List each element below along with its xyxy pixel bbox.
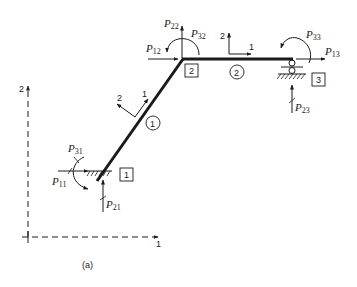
- load-p22-label: P22: [163, 17, 179, 31]
- member-1-local-axis-1-label: 1: [142, 89, 147, 99]
- global-axis-2-label: 2: [19, 84, 24, 94]
- load-p11-label: P11: [51, 175, 66, 189]
- load-p32-label: P32: [190, 27, 206, 41]
- global-axis-1-label: 1: [156, 239, 161, 249]
- load-p13-label: P13: [324, 45, 340, 59]
- fixed-support-hatch: [87, 171, 110, 176]
- member-2-label: 2: [234, 68, 239, 78]
- load-p31-moment: [73, 157, 88, 189]
- roller-base-hatch: [277, 74, 305, 79]
- member-1-local-axis-2: [117, 104, 135, 117]
- node-1: 1 P11 P21 P31: [51, 142, 133, 212]
- load-p33-label: P33: [305, 28, 321, 42]
- member-1-local-axis-1: [135, 99, 148, 117]
- node-3-label: 3: [316, 75, 321, 85]
- member-2-annotation: 2 1 2: [220, 31, 254, 79]
- load-p31-label: P31: [67, 142, 83, 156]
- load-p23-label: P23: [294, 101, 310, 115]
- load-p21-label: P21: [105, 198, 121, 212]
- load-p12-label: P12: [145, 42, 161, 56]
- member-2-local-axis-1-label: 1: [249, 42, 254, 52]
- node-1-label: 1: [124, 170, 129, 180]
- member-1-line: [97, 59, 183, 181]
- node-3: 3 P13 P23 P33: [277, 28, 340, 115]
- member-2-local-axis-2-label: 2: [220, 31, 225, 41]
- figure-caption: (a): [82, 260, 93, 270]
- member-1-local-axis-2-label: 2: [117, 93, 122, 103]
- global-axes: 2 1: [19, 84, 161, 249]
- pin-top: [289, 60, 295, 66]
- load-p32-moment: [167, 39, 199, 55]
- frame-diagram: 2 1 1 1 2 2 1 2 1: [0, 0, 357, 287]
- roller: [289, 68, 295, 74]
- node-2-label: 2: [189, 66, 194, 76]
- member-1-label: 1: [150, 119, 155, 129]
